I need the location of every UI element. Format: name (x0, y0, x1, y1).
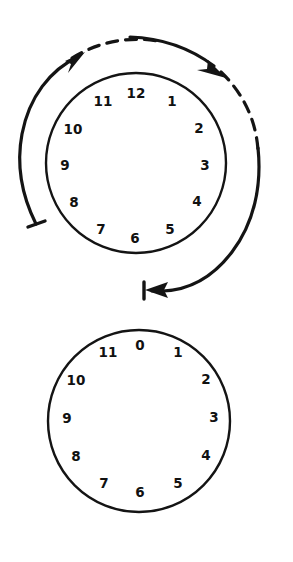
upper-numeral-9: 9 (60, 157, 69, 173)
lower-numeral-2: 2 (201, 371, 210, 387)
upper-numeral-7: 7 (96, 221, 105, 237)
upper-numeral-12: 12 (127, 85, 146, 101)
lower-numeral-4: 4 (201, 447, 210, 463)
lower-numeral-3: 3 (209, 409, 218, 425)
upper-numeral-5: 5 (165, 221, 174, 237)
upper-numeral-6: 6 (130, 230, 139, 246)
lower-numeral-0: 0 (135, 337, 144, 353)
upper-numeral-8: 8 (69, 194, 78, 210)
lower-numeral-7: 7 (99, 475, 108, 491)
lower-numeral-6: 6 (135, 484, 144, 500)
lower-numeral-10: 10 (67, 372, 86, 388)
diagram-canvas: 12 1 2 3 4 5 6 7 8 9 10 11 0 1 2 3 (0, 0, 293, 562)
upper-numeral-4: 4 (192, 193, 201, 209)
clock-diagram-figure: 12 1 2 3 4 5 6 7 8 9 10 11 0 1 2 3 (0, 0, 293, 562)
lower-numeral-1: 1 (173, 344, 182, 360)
lower-numeral-8: 8 (71, 448, 80, 464)
dashed-arc-right-path (221, 72, 258, 150)
upper-numeral-1: 1 (167, 93, 176, 109)
lower-numeral-11: 11 (99, 344, 118, 360)
upper-clock-numerals: 12 1 2 3 4 5 6 7 8 9 10 11 (60, 85, 209, 246)
upper-numeral-11: 11 (94, 93, 113, 109)
lower-numeral-9: 9 (62, 410, 71, 426)
upper-numeral-3: 3 (200, 157, 209, 173)
lower-clock-numerals: 0 1 2 3 4 5 6 7 8 9 10 11 (62, 337, 218, 500)
upper-numeral-10: 10 (64, 121, 83, 137)
upper-numeral-2: 2 (194, 120, 203, 136)
lower-clock-group: 0 1 2 3 4 5 6 7 8 9 10 11 (48, 330, 230, 512)
dashed-arc-left-path (72, 39, 157, 58)
upper-clock-group: 12 1 2 3 4 5 6 7 8 9 10 11 (20, 37, 259, 299)
lower-numeral-5: 5 (173, 475, 182, 491)
dashed-arc-solid-lead-path (130, 37, 214, 66)
